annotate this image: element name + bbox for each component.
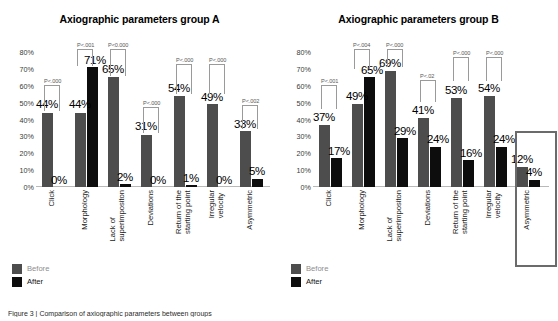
legend-swatch-before-icon	[291, 264, 301, 274]
x-cat-line1: Irregular	[207, 190, 216, 218]
significance-bracket	[110, 49, 126, 76]
bar-label-after: 4%	[526, 166, 542, 178]
y-tick-label: 20%	[20, 149, 34, 158]
bar-label-before: 41%	[412, 104, 434, 116]
plot-area-a: 44% 0% P<.000 44% 71% P<.001 65% 2%	[36, 52, 270, 187]
bar-group: 37% 17% P<.001	[319, 52, 343, 187]
legend-item-after: After	[12, 276, 132, 289]
figure-caption: Figure 3 | Comparison of axiographic par…	[8, 310, 554, 317]
x-cat-line2: superimpositon	[395, 190, 404, 242]
bar-group: 49% 65% P<.004	[352, 52, 376, 187]
p-value-label: P<.000	[453, 50, 470, 56]
x-cat-line1: Click	[47, 190, 56, 206]
bar-label-after: 5%	[249, 165, 265, 177]
significance-bracket	[420, 80, 436, 102]
significance-bracket	[143, 107, 159, 133]
x-cat-line2: starting point	[461, 190, 470, 234]
legend-b: Before After	[291, 263, 411, 289]
y-tick-label: 50%	[297, 98, 311, 107]
p-value-label: P<.000	[176, 57, 193, 63]
bar-label-after: 1%	[183, 172, 199, 184]
x-cat-line2: velocity	[494, 190, 503, 218]
x-category-label: Morphology	[350, 188, 374, 266]
bar-group: 69% 29% P<.000	[385, 52, 409, 187]
x-cat-line1: Morphology	[80, 190, 89, 230]
bar-before	[352, 104, 363, 187]
x-category-label: Click	[317, 188, 341, 266]
bar-after	[331, 158, 342, 187]
y-tick-label: 60%	[20, 81, 34, 90]
legend-item-before: Before	[12, 263, 132, 276]
legend-label-after: After	[306, 277, 322, 287]
chart-panel-group-a: Axiographic parameters group A 80% 70% 6…	[0, 0, 279, 300]
chart-title-a: Axiographic parameters group A	[0, 13, 279, 25]
bar-label-before: 37%	[313, 111, 335, 123]
y-tick-label: 70%	[297, 64, 311, 73]
p-value-label: P<.000	[486, 50, 503, 56]
x-cat-line1: Deviations	[423, 190, 432, 225]
x-category-label: Morphology	[73, 188, 97, 266]
p-value-label: P<.002	[242, 98, 259, 104]
y-tick-label: 30%	[297, 132, 311, 141]
y-tick-label: 0%	[24, 183, 34, 192]
bar-label-before: 12%	[511, 153, 533, 165]
bar-label-after: 24%	[493, 133, 515, 145]
bar-after	[252, 179, 263, 187]
p-value-label: P<.000	[386, 42, 403, 48]
x-cat-line1: Return of the	[451, 190, 460, 234]
bar-group: 44% 71% P<.001	[75, 52, 99, 187]
bar-label-after: 16%	[460, 147, 482, 159]
p-value-label: P<.02	[420, 73, 434, 79]
bar-group: 44% 0% P<.000	[42, 52, 66, 187]
x-category-label: Lack ofsuperimpositon	[383, 188, 407, 266]
x-axis-categories-a: Click Morphology Lack ofsuperimpositon D…	[36, 188, 270, 268]
x-category-label: Irregularvelocity	[205, 188, 229, 266]
y-tick-label: 10%	[20, 166, 34, 175]
bar-after	[120, 184, 131, 187]
p-value-label: P<.004	[353, 42, 370, 48]
legend-label-before: Before	[27, 264, 49, 274]
bar-group: 53% 16% P<.000	[451, 52, 475, 187]
significance-bracket	[242, 105, 258, 129]
p-value-label: P<.000	[209, 57, 226, 63]
plot-area-b: 37% 17% P<.001 49% 65% P<.004 69% 29%	[313, 52, 549, 187]
p-value-label: P<.001	[321, 78, 338, 84]
y-tick-label: 40%	[20, 115, 34, 124]
x-cat-line1: Irregular	[484, 190, 493, 218]
y-tick-label: 80%	[20, 48, 34, 57]
y-tick-label: 10%	[297, 166, 311, 175]
x-category-label: Asymmetric	[515, 188, 539, 266]
legend-swatch-after-icon	[291, 277, 301, 287]
x-cat-line1: Lack of	[108, 217, 117, 241]
x-category-label: Click	[40, 188, 64, 266]
y-axis-labels-a: 80% 70% 60% 50% 40% 30% 20% 10% 0%	[4, 52, 34, 187]
bar-before	[75, 113, 86, 187]
bar-group: 65% 2% P<0.000	[108, 52, 132, 187]
bar-label-before: 44%	[69, 98, 91, 110]
bar-label-before: 53%	[445, 84, 467, 96]
x-cat-line2: velocity	[217, 190, 226, 218]
x-cat-line1: Morphology	[357, 190, 366, 230]
chart-panel-group-b: Axiographic parameters group B 80% 70% 6…	[279, 0, 558, 300]
bar-group: 54% 1% P<.000	[174, 52, 198, 187]
bar-before	[418, 118, 429, 187]
x-cat-line2: superimpositon	[118, 190, 127, 242]
bar-group: 31% 0% P<.000	[141, 52, 165, 187]
y-tick-label: 0%	[301, 183, 311, 192]
bar-after	[496, 147, 507, 188]
x-category-label: Deviations	[139, 188, 163, 266]
y-tick-label: 20%	[297, 149, 311, 158]
p-value-label: P<.000	[143, 100, 160, 106]
bar-after	[430, 147, 441, 188]
x-cat-line1: Return of the	[174, 190, 183, 234]
y-tick-label: 50%	[20, 98, 34, 107]
bar-after	[463, 160, 474, 187]
x-cat-line1: Asymmetric	[245, 190, 254, 230]
bar-before	[451, 98, 462, 187]
bar-label-before: 54%	[478, 82, 500, 94]
x-category-label: Asymmetric	[238, 188, 262, 266]
bar-after	[186, 185, 197, 187]
p-value-label: P<0.000	[108, 42, 128, 48]
p-value-label: P<.001	[77, 42, 94, 48]
significance-bracket	[387, 49, 403, 67]
